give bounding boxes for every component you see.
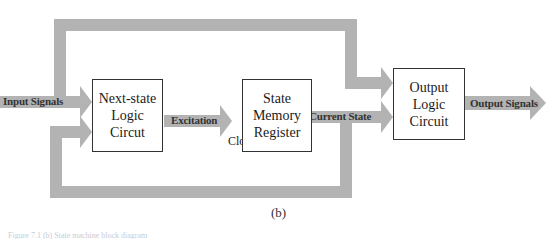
- subfigure-label: (b): [0, 205, 557, 221]
- output-signals-label: Output Signals: [470, 97, 538, 109]
- block-line: Output: [410, 79, 449, 96]
- block-line: Register: [254, 124, 301, 141]
- next-state-logic-block: Next-state Logic Circut: [92, 79, 163, 152]
- block-line: Memory: [253, 107, 301, 124]
- block-line: Circut: [110, 124, 145, 141]
- excitation-label: Excitation: [171, 114, 217, 126]
- input-signals-label: Input Signals: [3, 95, 63, 107]
- block-line: Logic: [413, 96, 446, 113]
- current-state-label: Current State: [309, 110, 371, 122]
- output-logic-block: Output Logic Circuit: [393, 68, 465, 140]
- block-line: State: [263, 90, 291, 107]
- figure-caption: Figure 7.1 (b) State machine block diagr…: [8, 231, 388, 239]
- block-line: Circuit: [410, 113, 449, 130]
- block-line: Logic: [111, 107, 144, 124]
- state-memory-register-block: State Memory Register: [242, 79, 312, 152]
- block-line: Next-state: [99, 90, 157, 107]
